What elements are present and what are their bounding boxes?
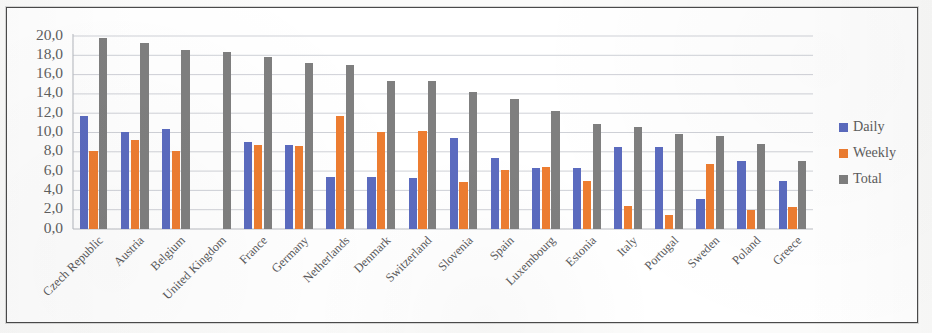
bar-total [305, 63, 313, 229]
y-axis-tick-label: 10,0 [36, 122, 63, 139]
bar-total [99, 38, 107, 229]
bar-total [387, 81, 395, 229]
bar-weekly [295, 146, 303, 229]
bar-total [346, 65, 354, 229]
x-axis-category-label: Czech Republic [40, 233, 106, 299]
y-axis-tick-label: 4,0 [44, 180, 64, 197]
bar-weekly [583, 181, 591, 229]
bar-total [140, 43, 148, 229]
bar-daily [573, 168, 581, 229]
bar-daily [162, 129, 170, 229]
bar-total [428, 81, 436, 229]
bar-total [551, 111, 559, 229]
bar-total [264, 57, 272, 229]
bar-total [593, 124, 601, 229]
bar-total [223, 52, 231, 229]
legend-swatch-weekly [839, 149, 848, 158]
bar-total [716, 136, 724, 229]
bar-total [757, 144, 765, 229]
x-axis-category-label: Poland [729, 233, 764, 268]
x-axis-category-label: Austria [111, 233, 147, 269]
bar-daily [696, 199, 704, 229]
bar-weekly [377, 132, 385, 229]
bar-weekly [172, 151, 180, 229]
bar-weekly [788, 207, 796, 229]
x-axis-category-label: Sweden [685, 233, 723, 271]
bar-total [634, 127, 642, 229]
bar-daily [614, 147, 622, 229]
chart-screenshot: 0,02,04,06,08,010,012,014,016,018,020,0 … [0, 0, 932, 333]
y-axis-tick-label: 8,0 [44, 141, 64, 158]
bar-daily [450, 138, 458, 229]
bar-weekly [89, 151, 97, 229]
y-axis-tick-label: 0,0 [44, 219, 64, 236]
bar-total [469, 92, 477, 229]
bar-weekly [336, 116, 344, 229]
y-axis-tick-label: 12,0 [36, 103, 63, 120]
bar-total [798, 161, 806, 229]
bar-weekly [747, 210, 755, 229]
y-axis-tick-label: 18,0 [36, 45, 63, 62]
bar-weekly [254, 145, 262, 229]
bar-daily [121, 132, 129, 229]
y-axis-tick-label: 16,0 [36, 64, 63, 81]
x-axis-category-label: Portugal [642, 233, 682, 273]
legend-label-daily: Daily [853, 118, 885, 134]
x-axis-category-label: Italy [614, 233, 641, 260]
bar-weekly [542, 167, 550, 229]
bar-daily [244, 142, 252, 229]
legend-swatch-total [839, 175, 848, 184]
x-axis-category-label: Slovenia [435, 233, 476, 274]
x-axis-category-label: Spain [487, 233, 517, 263]
legend-label-weekly: Weekly [853, 144, 897, 160]
bar-daily [326, 177, 334, 229]
y-axis-tick-label: 6,0 [44, 161, 64, 178]
bar-weekly [459, 182, 467, 229]
y-axis-tick-labels: 0,02,04,06,08,010,012,014,016,018,020,0 [36, 26, 63, 236]
bar-daily [491, 158, 499, 229]
chart-legend: DailyWeeklyTotal [839, 118, 897, 186]
x-axis-category-label: Belgium [148, 233, 188, 273]
x-axis-category-label: Estonia [563, 233, 600, 270]
bar-weekly [706, 164, 714, 229]
bar-daily [367, 177, 375, 229]
y-axis-tick-label: 14,0 [36, 83, 63, 100]
bar-daily [532, 168, 540, 229]
bar-series-group [80, 38, 807, 229]
bar-daily [779, 181, 787, 229]
legend-label-total: Total [853, 170, 882, 186]
x-axis-category-label: Greece [770, 233, 805, 268]
bar-weekly [624, 206, 632, 229]
bar-daily [409, 178, 417, 229]
bar-chart: 0,02,04,06,08,010,012,014,016,018,020,0 … [7, 8, 917, 322]
x-axis-category-labels: Czech RepublicAustriaBelgiumUnited Kingd… [40, 233, 805, 303]
bar-total [510, 99, 518, 229]
bar-total [675, 134, 683, 229]
bar-daily [80, 116, 88, 229]
bar-daily [737, 161, 745, 229]
bar-daily [655, 147, 663, 229]
bar-weekly [131, 140, 139, 229]
y-axis-tick-label: 20,0 [36, 26, 63, 43]
y-axis-tick-label: 2,0 [44, 199, 64, 216]
bar-weekly [665, 215, 673, 229]
bar-total [181, 50, 189, 229]
x-axis-category-label: France [236, 233, 270, 267]
bar-weekly [501, 170, 509, 229]
bar-daily [285, 145, 293, 229]
chart-frame: 0,02,04,06,08,010,012,014,016,018,020,0 … [6, 7, 918, 323]
bar-weekly [418, 131, 426, 229]
legend-swatch-daily [839, 123, 848, 132]
